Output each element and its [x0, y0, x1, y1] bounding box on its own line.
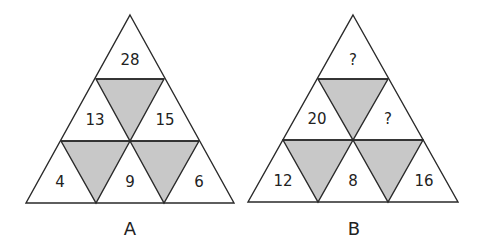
- triangle-a: 28 13 15 4 9 6 A: [26, 15, 234, 239]
- cell-b-middle-left: 20: [307, 110, 326, 128]
- shaded-cell-b-bottom-left: [283, 140, 353, 202]
- cell-b-bottom-left: 12: [273, 172, 292, 190]
- cell-a-bottom-left: 4: [55, 173, 65, 191]
- shaded-cell-b-top: [318, 79, 388, 140]
- cell-a-middle-right: 15: [155, 111, 174, 129]
- triangle-b-label: B: [348, 218, 360, 239]
- cell-a-bottom-right: 6: [194, 173, 204, 191]
- triangle-a-label: A: [124, 218, 137, 239]
- cell-a-top: 28: [120, 51, 139, 69]
- cell-b-bottom-right: 16: [414, 172, 433, 190]
- puzzle-canvas: 28 13 15 4 9 6 A ? 20 ? 12 8 16 B: [0, 0, 486, 249]
- cell-a-middle-left: 13: [85, 111, 104, 129]
- shaded-cell-a-bottom-left: [61, 141, 130, 203]
- cell-b-top: ?: [349, 51, 357, 69]
- shaded-cell-a-top: [96, 79, 164, 141]
- triangle-b: ? 20 ? 12 8 16 B: [248, 15, 458, 239]
- cell-a-bottom-center: 9: [125, 173, 135, 191]
- cell-b-middle-right: ?: [384, 110, 392, 128]
- shaded-cell-b-bottom-right: [353, 140, 423, 202]
- cell-b-bottom-center: 8: [348, 172, 358, 190]
- shaded-cell-a-bottom-right: [130, 141, 199, 203]
